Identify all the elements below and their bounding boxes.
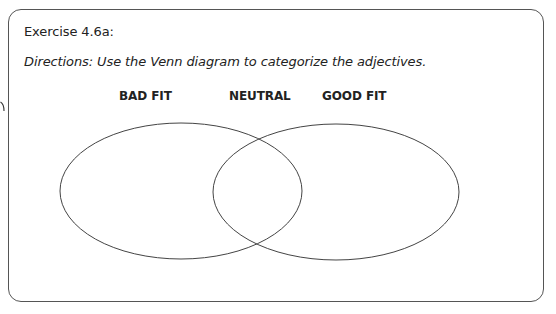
- venn-circle-bad-fit: [60, 123, 302, 259]
- venn-circle-good-fit: [213, 124, 459, 260]
- venn-diagram: [0, 0, 556, 314]
